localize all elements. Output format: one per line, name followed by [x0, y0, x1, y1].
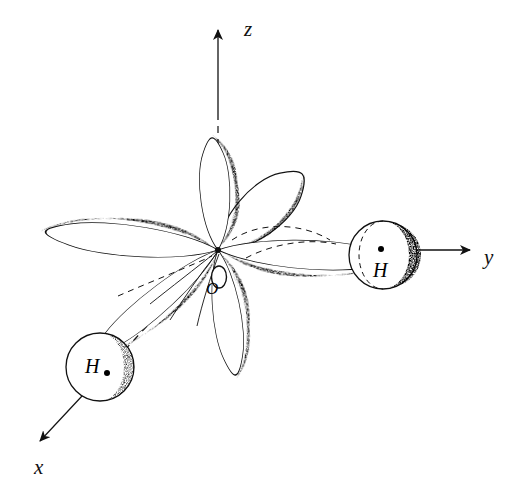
h-left-label: H	[84, 355, 101, 377]
origin-label: O	[206, 279, 218, 298]
axis-label-z: z	[243, 17, 252, 41]
orbital-diagram: z y x	[0, 0, 517, 483]
atom-h-right: H	[349, 221, 421, 289]
h-right-nucleus-dot	[378, 246, 384, 252]
origin-dot	[215, 247, 221, 253]
h-right-label: H	[372, 259, 389, 281]
atom-h-left: H	[66, 333, 134, 401]
h-left-nucleus-dot	[104, 370, 110, 376]
axis-label-x: x	[33, 455, 44, 479]
axis-label-y: y	[482, 245, 494, 269]
